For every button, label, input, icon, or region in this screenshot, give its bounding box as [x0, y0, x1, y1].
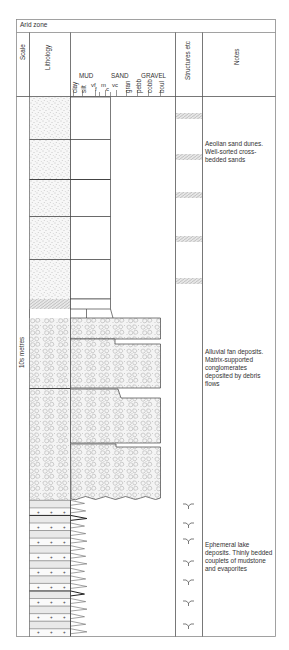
grain-group-gravel: GRAVEL: [141, 72, 166, 79]
grain-size-silt: silt: [80, 85, 87, 93]
svg-text:+: +: [50, 540, 53, 545]
svg-text:+: +: [37, 600, 40, 605]
svg-text:+: +: [50, 615, 53, 620]
grain-size-vc: vc: [112, 82, 118, 88]
scale-label: 10s metres: [18, 337, 25, 368]
svg-text:+: +: [63, 555, 66, 560]
cross-bedding-icon: [176, 236, 202, 242]
grain-size-pebb: pebb: [135, 79, 142, 93]
grain-size-gran: gran: [124, 80, 131, 93]
svg-text:+: +: [63, 540, 66, 545]
svg-text:+: +: [63, 570, 66, 575]
grain-size-boul: boul: [158, 81, 165, 93]
svg-text:+: +: [37, 630, 40, 635]
unit-aeolian: [30, 97, 114, 318]
svg-text:+: +: [63, 510, 66, 515]
header-notes: Notes: [233, 49, 240, 65]
header-scale: Scale: [19, 44, 26, 60]
svg-text:+: +: [50, 630, 53, 635]
svg-text:+: +: [50, 510, 53, 515]
grain-size-f: f: [95, 86, 97, 92]
svg-text:+: +: [37, 540, 40, 545]
svg-text:+: +: [63, 630, 66, 635]
svg-text:+: +: [50, 570, 53, 575]
svg-text:+: +: [37, 510, 40, 515]
svg-text:+: +: [50, 555, 53, 560]
note-ephemeral-lake: Ephemeral lake deposits. Thinly bedded c…: [205, 541, 275, 573]
unit-alluvial-fan: [30, 318, 161, 500]
grain-group-mud: MUD: [79, 72, 93, 79]
svg-text:+: +: [37, 585, 40, 590]
grain-group-sand: SAND: [111, 72, 129, 79]
svg-text:+: +: [37, 570, 40, 575]
header-structures: Structures etc: [184, 41, 191, 80]
svg-text:+: +: [37, 555, 40, 560]
note-aeolian: Aeolian sand dunes. Well-sorted cross-be…: [205, 140, 275, 164]
svg-text:+: +: [63, 525, 66, 530]
svg-text:+: +: [50, 600, 53, 605]
svg-text:+: +: [63, 615, 66, 620]
svg-text:+: +: [63, 585, 66, 590]
grain-size-clay: clay: [71, 82, 78, 93]
svg-text:+: +: [63, 600, 66, 605]
cross-bedding-icon: [176, 113, 202, 119]
cross-bedding-icon: [176, 192, 202, 198]
log-title: Arid zone: [20, 21, 47, 28]
svg-text:+: +: [37, 615, 40, 620]
grain-size-c: c: [106, 86, 109, 92]
svg-text:+: +: [50, 525, 53, 530]
svg-text:+: +: [50, 585, 53, 590]
header-lithology: Lithology: [44, 45, 51, 70]
cross-bedding-icon: [176, 278, 202, 284]
svg-text:+: +: [37, 525, 40, 530]
cross-bedding-icon: [176, 154, 202, 160]
note-alluvial-fan: Alluvial fan deposits. Matrix-supported …: [205, 348, 275, 388]
grain-size-cobb: cobb: [146, 79, 153, 93]
